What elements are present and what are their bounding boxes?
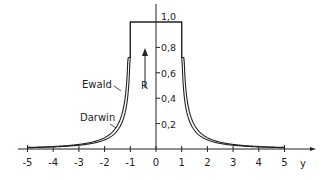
x-tick-label: 5	[281, 157, 287, 168]
x-tick-label: -5	[23, 157, 33, 168]
x-tick-label: 2	[204, 157, 210, 168]
r-arrow-icon	[142, 48, 148, 56]
x-tick-label: 4	[256, 157, 262, 168]
x-tick-label: 1	[179, 157, 185, 168]
annotations: Ewald Darwin R y	[80, 48, 306, 169]
y-tick-label: 1,0	[161, 11, 176, 22]
x-tick-label: -1	[125, 157, 135, 168]
y-tick-label: 0,4	[161, 93, 176, 104]
x-tick-label: 0	[153, 157, 159, 168]
x-tick-label: -4	[48, 157, 58, 168]
x-tick-label: -3	[74, 157, 84, 168]
y-tick-label: 0,2	[161, 119, 176, 130]
y-tick-label: 0,8	[161, 42, 176, 53]
ewald-label: Ewald	[82, 79, 112, 90]
y-tick-label: 0,6	[161, 68, 176, 79]
darwin-pointer	[110, 124, 116, 128]
x-tick-label: 3	[230, 157, 236, 168]
x-tick-label: -2	[100, 157, 110, 168]
x-axis-arrow-icon	[310, 147, 316, 151]
r-label: R	[141, 80, 148, 91]
reflectivity-chart: -5-4-3-2-10123450,20,40,60,81,0 Ewald Da…	[0, 0, 332, 180]
darwin-label: Darwin	[80, 112, 115, 123]
axes: -5-4-3-2-10123450,20,40,60,81,0	[18, 4, 316, 168]
ewald-pointer	[114, 86, 121, 91]
x-axis-label: y	[300, 158, 306, 169]
